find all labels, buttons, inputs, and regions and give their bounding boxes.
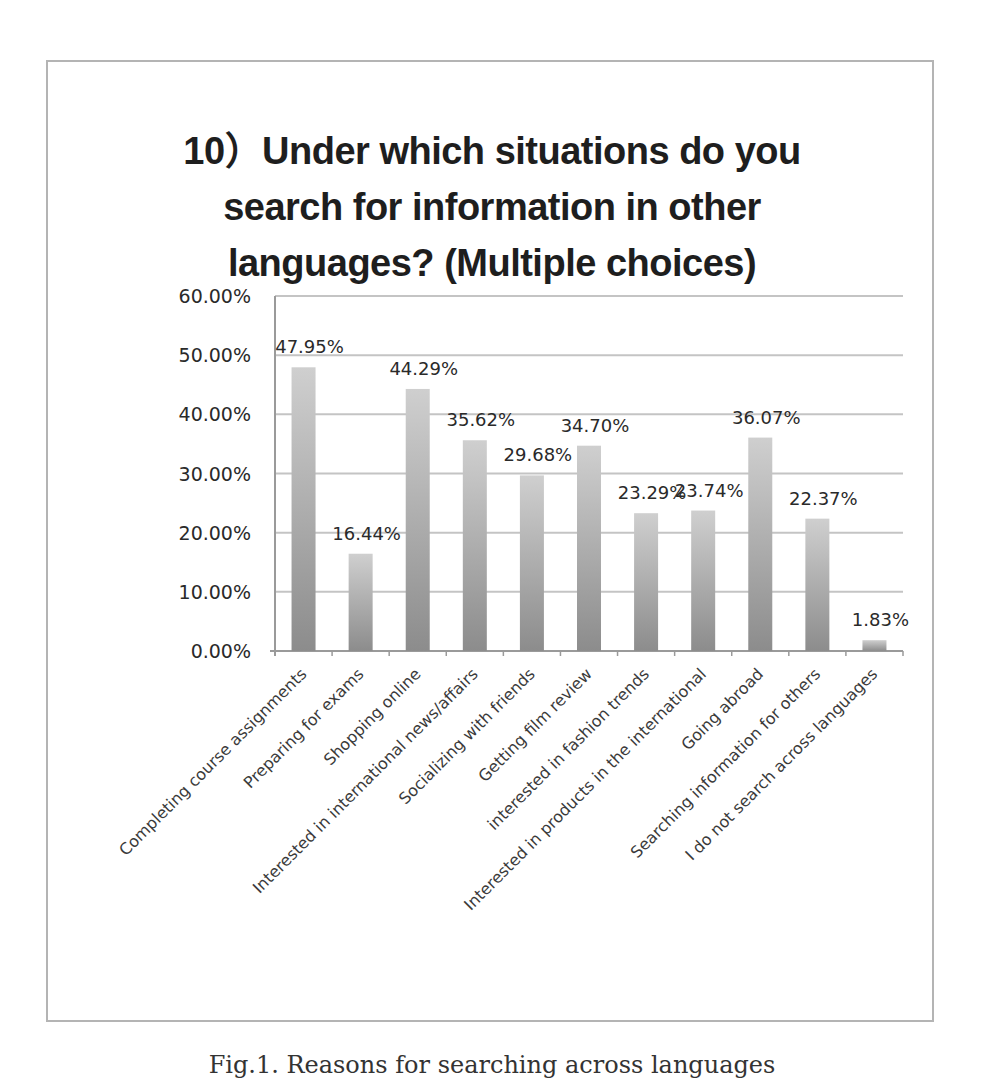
y-tick-label: 20.00% bbox=[179, 522, 251, 544]
data-label: 47.95% bbox=[275, 336, 344, 357]
data-label: 23.74% bbox=[675, 480, 744, 501]
data-label: 35.62% bbox=[446, 409, 515, 430]
y-tick-label: 50.00% bbox=[179, 344, 251, 366]
y-tick-label: 0.00% bbox=[191, 640, 251, 662]
bar bbox=[577, 446, 601, 651]
data-label: 29.68% bbox=[504, 444, 573, 465]
y-tick-label: 60.00% bbox=[179, 285, 251, 307]
bar bbox=[406, 389, 430, 651]
bar bbox=[349, 554, 373, 651]
x-axis-category-labels: Completing course assignmentsPreparing f… bbox=[115, 664, 881, 914]
data-label: 36.07% bbox=[732, 407, 801, 428]
y-tick-label: 10.00% bbox=[179, 581, 251, 603]
bar bbox=[805, 519, 829, 651]
y-tick-label: 40.00% bbox=[179, 403, 251, 425]
bar bbox=[748, 438, 772, 651]
bar bbox=[292, 367, 316, 651]
bar bbox=[520, 475, 544, 651]
data-label: 44.29% bbox=[389, 358, 458, 379]
bar bbox=[634, 513, 658, 651]
data-label: 34.70% bbox=[561, 415, 630, 436]
bar bbox=[463, 440, 487, 651]
data-label: 22.37% bbox=[789, 488, 858, 509]
x-category-label: Shopping online bbox=[320, 664, 425, 769]
y-tick-label: 30.00% bbox=[179, 463, 251, 485]
data-label: 1.83% bbox=[852, 609, 909, 630]
bar bbox=[862, 640, 886, 651]
figure-caption: Fig.1. Reasons for searching across lang… bbox=[0, 1051, 984, 1079]
y-axis-tick-labels: 0.00%10.00%20.00%30.00%40.00%50.00%60.00… bbox=[179, 285, 251, 662]
data-label: 16.44% bbox=[332, 523, 401, 544]
bar bbox=[691, 511, 715, 651]
